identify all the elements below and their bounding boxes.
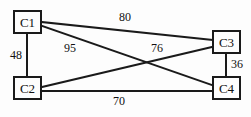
graph-node-c4[interactable]: C4: [212, 76, 241, 100]
graph-edge-c1-c3: [42, 22, 212, 40]
edge-weight-c1-c2: 48: [9, 49, 23, 61]
graph-node-c2[interactable]: C2: [13, 76, 42, 100]
edge-weight-c2-c3: 76: [150, 42, 164, 54]
graph-node-label: C2: [20, 82, 35, 95]
graph-diagram: C1C3C2C4 804895767036: [0, 0, 251, 117]
edge-weight-c1-c3: 80: [118, 11, 132, 23]
graph-node-label: C3: [219, 36, 234, 49]
graph-node-c3[interactable]: C3: [212, 30, 241, 54]
edge-weight-c1-c4: 95: [63, 42, 77, 54]
graph-node-label: C4: [219, 82, 234, 95]
edge-weight-c2-c4: 70: [112, 95, 126, 107]
graph-node-label: C1: [20, 16, 35, 29]
graph-edge-c1-c4: [42, 26, 212, 85]
edges-group: [27, 22, 226, 91]
graph-node-c1[interactable]: C1: [13, 10, 42, 34]
edge-weight-c3-c4: 36: [230, 58, 244, 70]
